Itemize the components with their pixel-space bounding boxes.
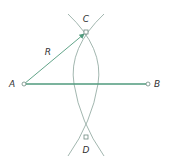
arc-right xyxy=(73,14,104,156)
arc-left xyxy=(68,14,99,156)
point-d xyxy=(84,135,88,139)
label-radius: R xyxy=(45,48,51,57)
bisector-construction-diagram: A B C D R xyxy=(0,0,172,163)
point-c xyxy=(84,30,88,34)
diagram-svg xyxy=(0,0,172,163)
point-a xyxy=(22,82,26,86)
point-b xyxy=(146,82,150,86)
label-a: A xyxy=(9,80,15,89)
label-c: C xyxy=(83,15,89,24)
label-b: B xyxy=(154,80,160,89)
label-d: D xyxy=(83,146,90,155)
